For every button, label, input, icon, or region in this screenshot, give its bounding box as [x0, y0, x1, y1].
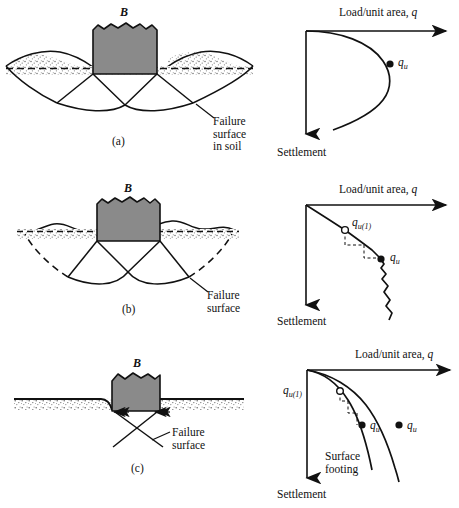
failure-surface-b-solid [68, 241, 189, 284]
chart-b-curve [306, 205, 392, 320]
chart-a-load-settlement: Load/unit area,q Settlement qu [277, 6, 446, 158]
chart-b-xaxis-label: Load/unit area,q [339, 183, 418, 196]
failure-surface-label-a: Failure surface in soil [213, 115, 249, 152]
chart-c-xaxis-label: Load/unit area,q [355, 348, 434, 361]
failure-surface-c [113, 412, 163, 447]
failure-surface-label-b: Failure surface [207, 289, 242, 314]
chart-b-load-settlement: Load/unit area,q Settlement qu(1) qu [277, 183, 446, 327]
footing-width-label-c: B [132, 356, 141, 370]
chart-b-qu-marker [377, 255, 384, 262]
panel-a-general-shear: B Failure surface in soil (a) [6, 5, 253, 152]
panel-c-punching-shear: B Failure surface (c) [14, 356, 244, 475]
chart-c-qu-surface-label: qu [370, 419, 380, 434]
chart-c-yaxis-label: Settlement [277, 488, 327, 500]
footing-b [97, 197, 160, 241]
chart-c-qu-surface-marker [358, 421, 365, 428]
footing-width-label-b: B [123, 181, 132, 195]
chart-c-qu1-label: qu(1) [283, 384, 302, 399]
footing-a [93, 23, 157, 74]
chart-b-qu-label: qu [390, 251, 400, 266]
panel-b-local-shear: B Failure surface (b) [17, 181, 242, 316]
bearing-capacity-figure: B Failure surface in soil (a) Load/ [0, 0, 459, 508]
chart-c-surface-footing-annotation: Surface footing [325, 450, 363, 476]
failure-surface-label-c: Failure surface [172, 426, 207, 451]
chart-c-qu1-marker [337, 388, 344, 395]
chart-c-load-settlement: Load/unit area,q Settlement qu(1) qu qu … [277, 348, 450, 500]
chart-c-qu-embedded-label: qu [407, 419, 417, 434]
annotation-leader-b [190, 278, 208, 292]
footing-width-label-a: B [119, 5, 128, 19]
figure-canvas: B Failure surface in soil (a) Load/ [0, 0, 459, 508]
panel-label-b: (b) [122, 303, 136, 316]
footing-c [112, 373, 160, 411]
chart-b-qu1-label: qu(1) [352, 216, 371, 231]
annotation-leader-a [196, 104, 214, 118]
chart-b-qu1-marker [342, 227, 349, 234]
annotation-leader-c [152, 432, 170, 440]
chart-a-qu-marker [386, 60, 393, 67]
chart-a-qu-label: qu [398, 56, 408, 71]
chart-b-yaxis-label: Settlement [277, 315, 327, 327]
chart-a-xaxis-label: Load/unit area,q [339, 6, 418, 19]
chart-a-yaxis-label: Settlement [277, 146, 327, 158]
chart-a-curve [306, 31, 390, 130]
chart-c-step-lines [340, 392, 357, 425]
chart-c-qu-embedded-marker [395, 421, 402, 428]
panel-label-a: (a) [112, 135, 125, 148]
panel-label-c: (c) [131, 462, 144, 475]
